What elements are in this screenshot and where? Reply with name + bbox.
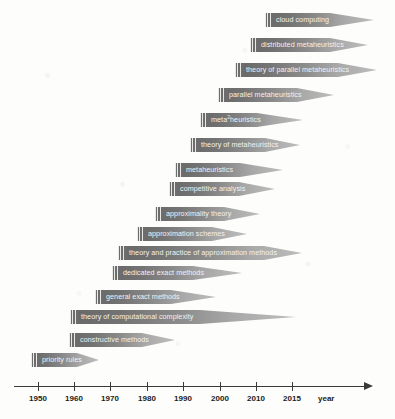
timeline-bar-start-stripes bbox=[155, 207, 164, 221]
timeline-bar-label: general exact methods bbox=[106, 290, 180, 304]
timeline-bar: theory and practice of approximation met… bbox=[118, 246, 302, 260]
timeline-bar-start-stripes bbox=[235, 63, 244, 77]
axis-tick-label: 2010 bbox=[247, 394, 265, 403]
timeline-bar-start-stripes bbox=[31, 353, 40, 367]
timeline-bar: parallel metaheuristics bbox=[218, 88, 334, 102]
timeline-bar-start-stripes bbox=[200, 113, 209, 127]
timeline-bar-start-stripes bbox=[69, 333, 78, 347]
timeline-bar: metaheuristics bbox=[175, 163, 283, 177]
timeline-bar-label: approximation schemes bbox=[148, 227, 225, 241]
timeline-bar-start-stripes bbox=[95, 290, 104, 304]
timeline-bar: theory of metaheuristics bbox=[190, 138, 300, 152]
axis-tick bbox=[292, 382, 293, 391]
axis-tick-label: 2000 bbox=[211, 394, 229, 403]
timeline-bar: distributed metaheuristics bbox=[250, 38, 368, 52]
timeline-bar-start-stripes bbox=[190, 138, 199, 152]
timeline-bar-label: competitive analysis bbox=[180, 182, 245, 196]
timeline-bar-label: constructive methods bbox=[80, 333, 149, 347]
timeline-bar: theory of parallel metaheuristics bbox=[235, 63, 377, 77]
timeline-bar-label: dedicated exact methods bbox=[123, 266, 204, 280]
axis-tick-label: 1960 bbox=[65, 394, 83, 403]
axis-tick-label: 1970 bbox=[101, 394, 119, 403]
axis-tick bbox=[74, 382, 75, 391]
timeline-bar-start-stripes bbox=[265, 13, 274, 27]
timeline-bar-start-stripes bbox=[175, 163, 184, 177]
timeline-bar-start-stripes bbox=[70, 310, 79, 324]
axis-tick-label: 1980 bbox=[138, 394, 156, 403]
timeline-bar: dedicated exact methods bbox=[112, 266, 242, 280]
axis-tick-label: 1950 bbox=[29, 394, 47, 403]
timeline-bar-start-stripes bbox=[250, 38, 259, 52]
timeline-bar: approximation schemes bbox=[137, 227, 247, 241]
timeline-bar: priority rules bbox=[31, 353, 99, 367]
timeline-bar-label: parallel metaheuristics bbox=[229, 88, 302, 102]
timeline-bar-label: theory of metaheuristics bbox=[201, 138, 279, 152]
timeline-bar-start-stripes bbox=[169, 182, 178, 196]
timeline-bar-label: distributed metaheuristics bbox=[261, 38, 344, 52]
timeline-bar-label: cloud computing bbox=[276, 13, 329, 27]
timeline-bar-label: priority rules bbox=[42, 353, 82, 367]
timeline-bar: general exact methods bbox=[95, 290, 216, 304]
timeline-bar: meta2heuristics bbox=[200, 113, 303, 127]
timeline-bar-start-stripes bbox=[112, 266, 121, 280]
timeline-bar-start-stripes bbox=[118, 246, 127, 260]
axis-line bbox=[14, 386, 366, 387]
timeline-bar: theory of computational complexity bbox=[70, 310, 296, 324]
axis-tick bbox=[183, 382, 184, 391]
axis-title: year bbox=[318, 394, 334, 403]
axis-tick-label: 1990 bbox=[174, 394, 192, 403]
timeline-bar: cloud computing bbox=[265, 13, 374, 27]
axis-tick bbox=[38, 382, 39, 391]
axis-tick bbox=[220, 382, 221, 391]
timeline-bar-start-stripes bbox=[137, 227, 146, 241]
timeline-bar-label: metaheuristics bbox=[186, 163, 233, 177]
timeline-chart: cloud computingdistributed metaheuristic… bbox=[0, 0, 395, 419]
timeline-bar: constructive methods bbox=[69, 333, 175, 347]
timeline-bar: approximality theory bbox=[155, 207, 260, 221]
timeline-bar-label: approximality theory bbox=[166, 207, 231, 221]
timeline-bar-label: theory of parallel metaheuristics bbox=[246, 63, 349, 77]
axis-tick bbox=[147, 382, 148, 391]
timeline-bar-label: theory and practice of approximation met… bbox=[129, 246, 277, 260]
timeline-bar-label: meta2heuristics bbox=[211, 113, 261, 127]
axis-tick bbox=[110, 382, 111, 391]
timeline-bar-label: theory of computational complexity bbox=[81, 310, 193, 324]
axis-tick-label: 2015 bbox=[283, 394, 301, 403]
axis-arrow-icon bbox=[364, 382, 373, 390]
timeline-bar-start-stripes bbox=[218, 88, 227, 102]
axis-tick bbox=[256, 382, 257, 391]
timeline-bar: competitive analysis bbox=[169, 182, 275, 196]
